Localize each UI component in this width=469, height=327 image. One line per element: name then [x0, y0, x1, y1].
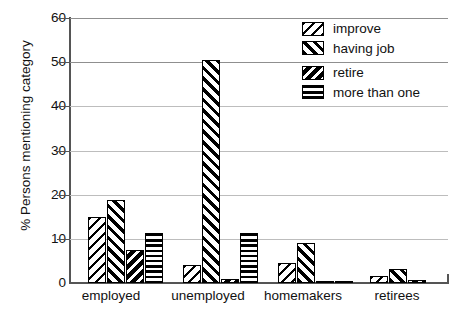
y-tick-20 — [57, 195, 69, 196]
x-tick-label-homemakers: homemakers — [254, 288, 352, 303]
bar-retirees-retire — [408, 280, 426, 283]
bar-unemployed-retire — [221, 279, 239, 283]
legend: improve having job retire more than one — [302, 19, 452, 102]
bar-retirees-having-job — [389, 269, 407, 283]
y-tick-label-0: 0 — [32, 276, 66, 290]
x-tick-label-retirees: retirees — [352, 288, 442, 303]
bar-homemakers-more-than-one — [335, 281, 353, 283]
bar-homemakers-improve — [278, 263, 296, 283]
legend-swatch-improve-icon — [302, 22, 324, 36]
chart-figure: % Persons mentioning category 60 50 40 3… — [0, 0, 469, 327]
bar-employed-improve — [88, 217, 106, 283]
legend-label-more-than-one: more than one — [333, 86, 420, 100]
y-tick-50 — [57, 62, 69, 63]
x-tick-label-unemployed: unemployed — [160, 288, 256, 303]
legend-item-more-than-one: more than one — [302, 83, 452, 103]
legend-item-having-job: having job — [302, 39, 452, 59]
bar-retirees-improve — [370, 276, 388, 283]
y-tick-40 — [57, 106, 69, 107]
bar-unemployed-having-job — [202, 60, 220, 283]
bar-group-employed — [88, 18, 168, 283]
y-tick-30 — [57, 151, 69, 152]
legend-swatch-retire-icon — [302, 66, 324, 80]
legend-item-retire: retire — [302, 63, 452, 83]
legend-label-having-job: having job — [333, 42, 395, 56]
legend-swatch-more-than-one-icon — [302, 85, 324, 99]
legend-label-improve: improve — [333, 22, 381, 36]
legend-label-retire: retire — [333, 66, 364, 80]
y-tick-10 — [57, 239, 69, 240]
x-tick-label-employed: employed — [66, 288, 156, 303]
bar-employed-having-job — [107, 200, 125, 283]
bar-employed-retire — [126, 250, 144, 283]
bar-homemakers-retire — [316, 281, 334, 283]
bar-unemployed-more-than-one — [240, 233, 258, 283]
y-axis-tick-labels: 60 50 40 30 20 10 0 — [18, 0, 66, 327]
bar-homemakers-having-job — [297, 243, 315, 283]
bar-employed-more-than-one — [145, 233, 163, 283]
legend-swatch-having-job-icon — [302, 41, 324, 55]
y-tick-60 — [57, 18, 69, 19]
bar-unemployed-improve — [183, 265, 201, 283]
legend-item-improve: improve — [302, 19, 452, 39]
bar-group-unemployed — [183, 18, 263, 283]
